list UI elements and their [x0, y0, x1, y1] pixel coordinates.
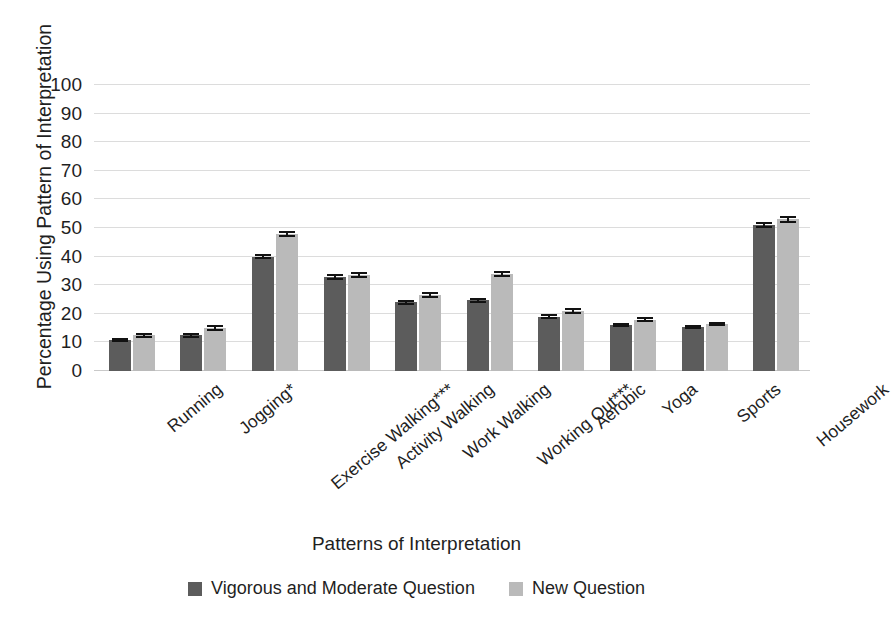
y-tick-label: 60	[36, 188, 82, 210]
bar	[491, 274, 513, 371]
x-tick-label: Yoga	[658, 379, 702, 420]
x-tick-label: Jogging*	[235, 379, 301, 439]
error-bar-cap-top	[279, 231, 295, 233]
error-bar	[777, 216, 799, 222]
y-tick-label: 100	[36, 74, 82, 96]
legend-label: New Question	[532, 578, 645, 599]
bar	[276, 234, 298, 371]
error-bar-cap-top	[398, 300, 414, 302]
bar	[777, 219, 799, 371]
bar-group	[395, 85, 441, 371]
error-bar-cap-top	[494, 271, 510, 273]
bar	[180, 335, 202, 371]
error-bar-cap-bottom	[709, 324, 725, 326]
legend-swatch	[188, 582, 202, 596]
y-tick-label: 20	[36, 303, 82, 325]
error-bar-cap-bottom	[255, 257, 271, 259]
chart-legend: Vigorous and Moderate QuestionNew Questi…	[0, 578, 833, 599]
bar-group	[109, 85, 155, 371]
error-bar-cap-bottom	[279, 235, 295, 237]
error-bar	[348, 272, 370, 278]
error-bar-cap-bottom	[207, 329, 223, 331]
error-bar-cap-bottom	[183, 336, 199, 338]
error-bar-cap-bottom	[637, 320, 653, 322]
error-bar	[276, 231, 298, 237]
y-tick-label: 70	[36, 160, 82, 182]
error-bar-cap-bottom	[470, 301, 486, 303]
bar-group	[324, 85, 370, 371]
error-bar-cap-bottom	[351, 276, 367, 278]
error-bar-cap-top	[327, 274, 343, 276]
bar	[562, 311, 584, 371]
error-bar	[109, 338, 131, 342]
bar	[753, 225, 775, 371]
error-bar	[252, 254, 274, 260]
error-bar	[180, 333, 202, 338]
error-bar-cap-bottom	[685, 327, 701, 329]
error-bar	[682, 325, 704, 329]
error-bar-cap-top	[756, 222, 772, 224]
bar	[634, 320, 656, 371]
legend-item[interactable]: New Question	[509, 578, 645, 599]
x-tick-label: Sports	[732, 379, 784, 428]
bar	[682, 327, 704, 371]
error-bar	[324, 274, 346, 280]
bar	[706, 324, 728, 371]
bar	[348, 275, 370, 371]
error-bar	[562, 308, 584, 313]
error-bar	[133, 333, 155, 338]
bar	[133, 335, 155, 371]
bar	[109, 340, 131, 371]
error-bar	[610, 323, 632, 327]
error-bar-cap-top	[136, 333, 152, 335]
error-bar-cap-bottom	[112, 340, 128, 342]
x-tick-label: Housework	[813, 379, 893, 451]
error-bar	[538, 314, 560, 319]
error-bar	[634, 317, 656, 322]
y-tick-label: 30	[36, 274, 82, 296]
error-bar	[491, 271, 513, 277]
y-tick-label: 50	[36, 217, 82, 239]
error-bar	[753, 222, 775, 228]
x-tick-label: Running	[163, 379, 226, 437]
error-bar-cap-top	[255, 254, 271, 256]
bar	[324, 277, 346, 371]
error-bar-cap-top	[470, 298, 486, 300]
error-bar-cap-bottom	[398, 303, 414, 305]
y-tick-label: 0	[36, 360, 82, 382]
error-bar-cap-bottom	[541, 317, 557, 319]
error-bar-cap-bottom	[780, 221, 796, 223]
bar	[610, 325, 632, 371]
bar-groups	[94, 85, 810, 371]
plot-area: 1009080706050403020100	[94, 85, 810, 371]
error-bar	[204, 325, 226, 331]
error-bar	[706, 322, 728, 327]
bar-group	[252, 85, 298, 371]
error-bar	[419, 292, 441, 298]
error-bar	[467, 298, 489, 303]
y-tick-label: 80	[36, 131, 82, 153]
error-bar-cap-bottom	[613, 325, 629, 327]
y-tick-label: 10	[36, 331, 82, 353]
error-bar-cap-top	[780, 216, 796, 218]
error-bar-cap-top	[422, 292, 438, 294]
bar	[419, 295, 441, 371]
error-bar-cap-bottom	[494, 275, 510, 277]
bar-group	[753, 85, 799, 371]
error-bar-cap-bottom	[756, 226, 772, 228]
bar	[395, 302, 417, 371]
error-bar-cap-bottom	[565, 312, 581, 314]
bar	[538, 317, 560, 371]
legend-swatch	[509, 582, 523, 596]
bar	[204, 328, 226, 371]
bar-group	[467, 85, 513, 371]
y-tick-label: 90	[36, 103, 82, 125]
legend-label: Vigorous and Moderate Question	[211, 578, 475, 599]
error-bar-cap-top	[351, 272, 367, 274]
error-bar-cap-bottom	[327, 278, 343, 280]
bar-group	[682, 85, 728, 371]
error-bar	[395, 300, 417, 305]
legend-item[interactable]: Vigorous and Moderate Question	[188, 578, 475, 599]
bar	[252, 257, 274, 371]
